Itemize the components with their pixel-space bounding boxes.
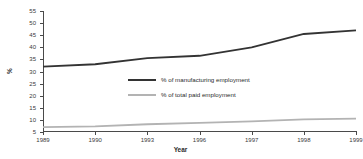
- y-tick-label: 35: [29, 56, 36, 62]
- series-line-total-paid: [43, 30, 356, 66]
- x-tick-label: 1999: [349, 137, 362, 143]
- x-tick-label: 1993: [141, 137, 154, 143]
- y-tick-label: 25: [29, 81, 36, 87]
- legend: % of manufacturing employment % of total…: [128, 77, 250, 98]
- x-tick-label: 1998: [297, 137, 310, 143]
- legend-swatch-total-paid: [128, 94, 156, 96]
- x-tick-label: 1990: [88, 137, 101, 143]
- x-tick-label: 1989: [36, 137, 49, 143]
- series-line-manufacturing: [43, 119, 356, 127]
- legend-item-total-paid: % of total paid employment: [128, 92, 250, 98]
- y-tick-label: 5: [33, 129, 36, 135]
- legend-item-manufacturing: % of manufacturing employment: [128, 77, 250, 83]
- y-axis-title: %: [6, 68, 13, 74]
- y-tick-label: 10: [29, 117, 36, 123]
- x-tick-label: 1996: [193, 137, 206, 143]
- series-lines: [43, 11, 356, 132]
- x-axis-title: Year: [0, 146, 361, 153]
- legend-label-manufacturing: % of manufacturing employment: [161, 77, 250, 83]
- x-tick: 1999: [356, 131, 357, 135]
- legend-label-total-paid: % of total paid employment: [161, 92, 236, 98]
- y-tick-label: 40: [29, 44, 36, 50]
- y-tick-label: 50: [29, 20, 36, 26]
- y-tick-label: 30: [29, 69, 36, 75]
- legend-swatch-manufacturing: [128, 79, 156, 81]
- y-tick-label: 20: [29, 93, 36, 99]
- y-tick-label: 45: [29, 32, 36, 38]
- y-tick-label: 15: [29, 105, 36, 111]
- y-tick-label: 55: [29, 8, 36, 14]
- x-tick-label: 1997: [245, 137, 258, 143]
